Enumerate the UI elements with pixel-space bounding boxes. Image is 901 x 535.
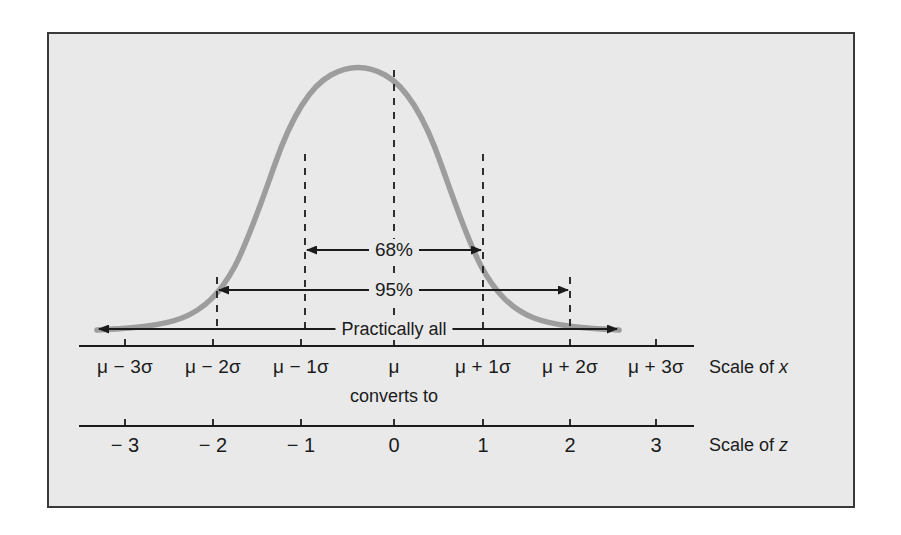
x-tick-label-mu: μ (388, 356, 399, 378)
label-converts-to: converts to (344, 386, 444, 407)
z-axis-ticks (125, 419, 656, 426)
figure-panel: 68% 95% Practically all μ − 3σ μ − 2σ μ … (47, 32, 855, 508)
z-axis (79, 419, 694, 426)
z-tick-label-three: 3 (650, 434, 661, 457)
x-axis-variable: x (779, 357, 788, 377)
x-tick-label-minus2sigma: μ − 2σ (185, 356, 241, 378)
x-tick-label-minus3sigma: μ − 3σ (97, 356, 153, 378)
x-tick-label-minus1sigma: μ − 1σ (273, 356, 329, 378)
label-68-percent: 68% (369, 239, 419, 261)
z-tick-label-one: 1 (477, 434, 488, 457)
x-axis-title-text: Scale of (709, 357, 779, 377)
x-axis-title: Scale of x (709, 357, 788, 378)
z-tick-label-minus1: − 1 (287, 434, 315, 457)
x-axis (79, 339, 694, 346)
z-axis-variable: z (779, 435, 788, 455)
x-axis-ticks (125, 339, 656, 346)
z-tick-label-zero: 0 (388, 434, 399, 457)
label-practically-all: Practically all (335, 319, 452, 340)
z-tick-label-minus2: − 2 (199, 434, 227, 457)
z-axis-title: Scale of z (709, 435, 788, 456)
z-tick-label-minus3: − 3 (111, 434, 139, 457)
empirical-rule-figure: 68% 95% Practically all μ − 3σ μ − 2σ μ … (0, 0, 901, 535)
x-tick-label-plus1sigma: μ + 1σ (455, 356, 511, 378)
label-95-percent: 95% (369, 279, 419, 301)
z-axis-title-text: Scale of (709, 435, 779, 455)
x-tick-label-plus2sigma: μ + 2σ (542, 356, 598, 378)
x-tick-label-plus3sigma: μ + 3σ (628, 356, 684, 378)
z-tick-label-two: 2 (564, 434, 575, 457)
